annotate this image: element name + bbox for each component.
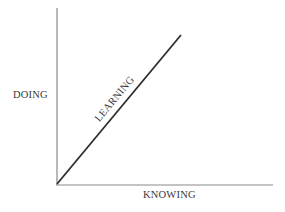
- learning-diagram: DOING KNOWING LEARNING: [0, 0, 285, 212]
- learning-line: [57, 35, 181, 184]
- y-axis-label: DOING: [13, 89, 48, 100]
- x-axis-label: KNOWING: [143, 189, 196, 200]
